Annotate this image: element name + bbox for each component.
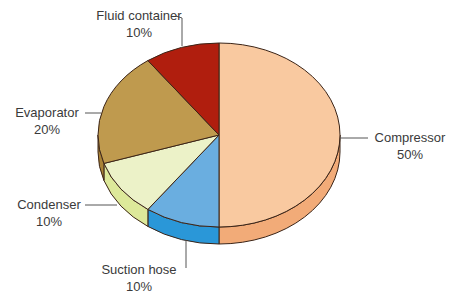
label-compressor-name: Compressor	[370, 129, 450, 146]
label-compressor: Compressor 50%	[370, 129, 450, 163]
label-condenser-name: Condenser	[14, 196, 84, 213]
label-compressor-pct: 50%	[370, 146, 450, 163]
label-evaporator: Evaporator 20%	[10, 104, 84, 138]
label-fluid-container: Fluid container 10%	[94, 7, 184, 41]
label-condenser-pct: 10%	[14, 213, 84, 230]
label-evaporator-name: Evaporator	[10, 104, 84, 121]
label-evaporator-pct: 20%	[10, 121, 84, 138]
pie-top-faces	[98, 43, 340, 227]
label-fluid-container-pct: 10%	[94, 24, 184, 41]
label-condenser: Condenser 10%	[14, 196, 84, 230]
label-suction-hose-name: Suction hose	[94, 261, 184, 278]
label-suction-hose-pct: 10%	[94, 278, 184, 295]
label-fluid-container-name: Fluid container	[94, 7, 184, 24]
label-suction-hose: Suction hose 10%	[94, 261, 184, 295]
